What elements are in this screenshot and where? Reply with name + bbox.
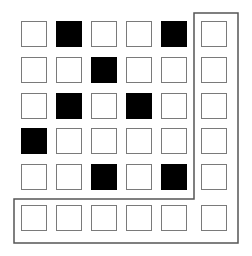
empty-cell-r2-c1[interactable] xyxy=(21,57,47,83)
empty-cell-r2-c2[interactable] xyxy=(56,57,82,83)
empty-cell-r1-c3[interactable] xyxy=(91,21,117,47)
filled-cell-r3-c2[interactable] xyxy=(56,93,82,119)
empty-cell-r6-c4[interactable] xyxy=(126,205,152,231)
empty-cell-r2-c5[interactable] xyxy=(161,57,187,83)
empty-cell-r3-c6[interactable] xyxy=(201,93,227,119)
empty-cell-r1-c6[interactable] xyxy=(201,21,227,47)
empty-cell-r2-c6[interactable] xyxy=(201,57,227,83)
filled-cell-r5-c3[interactable] xyxy=(91,164,117,190)
empty-cell-r3-c3[interactable] xyxy=(91,93,117,119)
empty-cell-r3-c1[interactable] xyxy=(21,93,47,119)
empty-cell-r1-c4[interactable] xyxy=(126,21,152,47)
empty-cell-r3-c5[interactable] xyxy=(161,93,187,119)
filled-cell-r3-c4[interactable] xyxy=(126,93,152,119)
empty-cell-r6-c1[interactable] xyxy=(21,205,47,231)
empty-cell-r5-c2[interactable] xyxy=(56,164,82,190)
empty-cell-r4-c4[interactable] xyxy=(126,128,152,154)
filled-cell-r4-c1[interactable] xyxy=(21,128,47,154)
empty-cell-r5-c4[interactable] xyxy=(126,164,152,190)
empty-cell-r6-c3[interactable] xyxy=(91,205,117,231)
empty-cell-r6-c6[interactable] xyxy=(201,205,227,231)
filled-cell-r5-c5[interactable] xyxy=(161,164,187,190)
empty-cell-r2-c4[interactable] xyxy=(126,57,152,83)
empty-cell-r1-c1[interactable] xyxy=(21,21,47,47)
empty-cell-r4-c2[interactable] xyxy=(56,128,82,154)
filled-cell-r1-c2[interactable] xyxy=(56,21,82,47)
empty-cell-r4-c3[interactable] xyxy=(91,128,117,154)
empty-cell-r4-c5[interactable] xyxy=(161,128,187,154)
empty-cell-r5-c1[interactable] xyxy=(21,164,47,190)
filled-cell-r2-c3[interactable] xyxy=(91,57,117,83)
empty-cell-r5-c6[interactable] xyxy=(201,164,227,190)
empty-cell-r6-c5[interactable] xyxy=(161,205,187,231)
puzzle-grid xyxy=(0,0,252,256)
empty-cell-r6-c2[interactable] xyxy=(56,205,82,231)
empty-cell-r4-c6[interactable] xyxy=(201,128,227,154)
filled-cell-r1-c5[interactable] xyxy=(161,21,187,47)
